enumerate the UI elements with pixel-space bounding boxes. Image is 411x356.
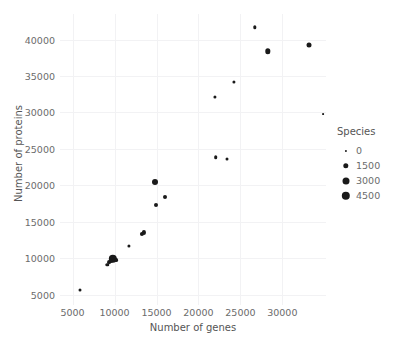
data-point: [214, 156, 218, 160]
chart-title: [0, 0, 411, 8]
x-tick-label: 20000: [183, 307, 213, 318]
data-point: [127, 245, 130, 248]
legend-title: Species: [337, 126, 408, 137]
gridline-horizontal: [60, 112, 326, 113]
legend-item[interactable]: 3000: [336, 173, 408, 188]
gridline-horizontal: [60, 40, 326, 41]
data-point: [79, 288, 82, 291]
gridline-horizontal: [60, 295, 326, 296]
gridline-vertical: [198, 14, 199, 305]
y-tick-label: 35000: [25, 70, 55, 81]
gridline-vertical: [157, 14, 158, 305]
y-tick-label: 25000: [25, 143, 55, 154]
legend-item-label: 4500: [356, 190, 380, 201]
gridline-horizontal: [60, 185, 326, 186]
legend-entries: 0150030004500: [336, 143, 408, 203]
data-point: [142, 230, 146, 234]
gridline-horizontal: [60, 222, 326, 223]
x-tick-label: 5000: [60, 307, 84, 318]
gridline-vertical: [240, 14, 241, 305]
data-point: [307, 43, 312, 48]
data-point: [226, 157, 229, 160]
data-point: [232, 80, 235, 83]
legend-marker-icon: [336, 158, 356, 173]
legend-marker-icon: [336, 188, 356, 203]
y-tick-label: 20000: [25, 180, 55, 191]
legend-item-label: 3000: [356, 175, 380, 186]
y-axis-label: Number of proteins: [13, 89, 24, 219]
y-tick-label: 40000: [25, 34, 55, 45]
x-axis-ticks: 50001000015000200002500030000: [60, 307, 326, 323]
data-point: [323, 113, 325, 115]
legend-item[interactable]: 0: [336, 143, 408, 158]
x-tick-label: 10000: [99, 307, 129, 318]
x-axis-label: Number of genes: [60, 322, 326, 333]
legend-item[interactable]: 4500: [336, 188, 408, 203]
legend-item[interactable]: 1500: [336, 158, 408, 173]
data-point: [253, 26, 256, 29]
plot-area: [60, 14, 326, 305]
y-tick-label: 5000: [31, 289, 55, 300]
legend-item-label: 0: [356, 145, 362, 156]
scatter-chart: 500010000150002000025000300003500040000 …: [0, 0, 411, 356]
gridline-vertical: [73, 14, 74, 305]
legend-dot: [342, 191, 350, 199]
y-tick-label: 30000: [25, 107, 55, 118]
data-point: [152, 179, 158, 185]
x-tick-label: 15000: [141, 307, 171, 318]
y-axis-ticks: 500010000150002000025000300003500040000: [0, 14, 55, 305]
y-tick-label: 10000: [25, 253, 55, 264]
gridline-horizontal: [60, 258, 326, 259]
data-point: [163, 195, 167, 199]
legend-dot: [343, 177, 350, 184]
legend-marker-icon: [336, 143, 356, 158]
data-point: [265, 48, 270, 53]
gridline-vertical: [282, 14, 283, 305]
y-tick-label: 15000: [25, 216, 55, 227]
x-tick-label: 25000: [225, 307, 255, 318]
gridline-horizontal: [60, 76, 326, 77]
gridline-horizontal: [60, 149, 326, 150]
legend: Species 0150030004500: [336, 126, 408, 203]
data-point: [214, 95, 217, 98]
data-point: [114, 258, 118, 262]
legend-item-label: 1500: [356, 160, 380, 171]
data-point: [154, 203, 158, 207]
legend-dot: [343, 163, 348, 168]
legend-marker-icon: [336, 173, 356, 188]
x-tick-label: 30000: [267, 307, 297, 318]
legend-dot: [345, 149, 347, 151]
